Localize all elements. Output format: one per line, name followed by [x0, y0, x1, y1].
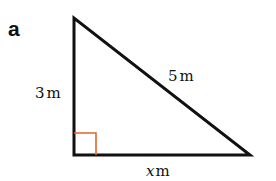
vertical-side-unit: m — [47, 84, 61, 102]
vertical-side-value: 3 — [35, 84, 45, 102]
vertical-side-label: 3m — [35, 84, 61, 102]
base-label: xm — [146, 162, 170, 180]
hypotenuse-label: 5m — [168, 67, 194, 85]
base-unit: m — [155, 162, 169, 180]
hypotenuse-unit: m — [180, 67, 194, 85]
triangle-diagram: a 3m 5m xm — [0, 0, 276, 181]
base-variable: x — [146, 162, 155, 180]
hypotenuse-value: 5 — [168, 67, 178, 85]
triangle-shape — [74, 18, 250, 155]
part-label: a — [8, 17, 20, 40]
right-angle-marker — [74, 133, 96, 155]
